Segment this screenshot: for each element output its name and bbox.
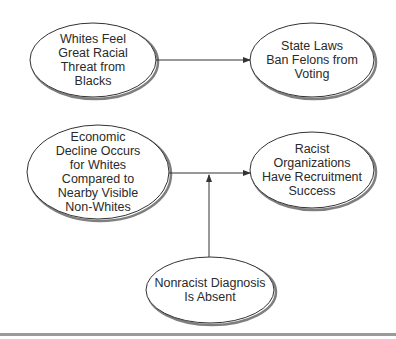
node-label-line: Organizations bbox=[273, 156, 350, 170]
node-label-line: Economic bbox=[71, 130, 126, 144]
node-label-line: State Laws bbox=[281, 39, 343, 53]
node-label-line: Decline Occurs bbox=[56, 144, 141, 158]
node-label-line: Blacks bbox=[75, 74, 112, 88]
node-racist-orgs: Racist Organizations Have Recruitment Su… bbox=[250, 132, 374, 208]
node-whites-threat: Whites Feel Great Racial Threat from Bla… bbox=[30, 23, 156, 97]
node-label-line: Racist bbox=[295, 142, 330, 156]
bottom-divider bbox=[0, 333, 396, 336]
node-label-line: Threat from bbox=[61, 60, 126, 74]
node-label-line: for Whites bbox=[70, 158, 126, 172]
node-label-line: Great Racial bbox=[58, 46, 127, 60]
node-label-line: Success bbox=[288, 184, 335, 198]
node-label-line: Voting bbox=[295, 67, 330, 81]
node-label-line: Non-Whites bbox=[65, 200, 130, 214]
node-label-line: Nonracist Diagnosis bbox=[154, 276, 265, 290]
node-label-line: Nearby Visible bbox=[58, 186, 138, 200]
node-label-line: Ban Felons from bbox=[266, 53, 358, 67]
node-economic-decline: Economic Decline Occurs for Whites Compa… bbox=[27, 125, 169, 219]
node-felon-laws: State Laws Ban Felons from Voting bbox=[250, 23, 374, 97]
node-nonracist-diagnosis: Nonracist Diagnosis Is Absent bbox=[146, 257, 274, 323]
node-label-line: Have Recruitment bbox=[262, 170, 362, 184]
node-label-line: Compared to bbox=[62, 172, 134, 186]
node-label-line: Is Absent bbox=[184, 290, 235, 304]
node-label-line: Whites Feel bbox=[60, 32, 126, 46]
